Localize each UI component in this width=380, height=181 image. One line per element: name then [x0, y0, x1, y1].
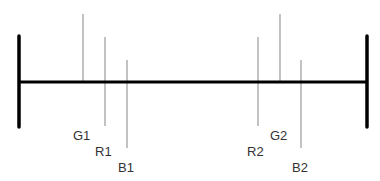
label-b1: B1	[118, 161, 134, 174]
label-g1: G1	[73, 129, 90, 142]
label-r2: R2	[247, 145, 264, 158]
label-r1: R1	[95, 145, 112, 158]
label-g2: G2	[270, 129, 287, 142]
diagram-canvas	[0, 0, 380, 181]
label-b2: B2	[292, 161, 308, 174]
